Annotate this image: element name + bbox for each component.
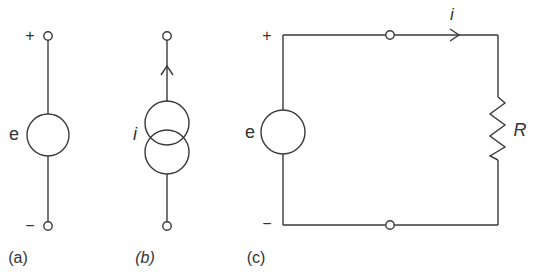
caption-a: (a)	[8, 249, 28, 266]
minus-label-c: −	[262, 215, 271, 232]
terminal-a-top	[44, 32, 52, 40]
current-source-lower-circle-icon	[145, 130, 189, 174]
source-label-b: i	[133, 124, 138, 144]
resistor-label-c: R	[514, 120, 527, 140]
terminal-b-top	[163, 32, 171, 40]
panel-a: + − e (a)	[8, 27, 69, 266]
plus-label-a: +	[25, 27, 34, 44]
caption-b: (b)	[135, 249, 155, 266]
source-label-c: e	[245, 122, 255, 142]
terminal-c-top	[386, 31, 394, 39]
current-source-upper-circle-icon	[145, 101, 189, 145]
panel-c: + − e i R (c)	[245, 5, 527, 266]
resistor-icon	[490, 97, 505, 160]
caption-c: (c)	[247, 249, 266, 266]
voltage-source-icon	[27, 114, 69, 156]
terminal-b-bottom	[163, 222, 171, 230]
source-label-a: e	[9, 124, 19, 144]
minus-label-a: −	[25, 217, 34, 234]
panel-b: i (b)	[133, 32, 189, 266]
circuit-diagram: + − e (a) i (b) + −	[0, 0, 533, 272]
terminal-a-bottom	[44, 222, 52, 230]
terminal-c-bottom	[386, 221, 394, 229]
voltage-source-icon	[261, 110, 305, 154]
current-label-c: i	[450, 5, 455, 24]
plus-label-c: +	[262, 27, 271, 44]
